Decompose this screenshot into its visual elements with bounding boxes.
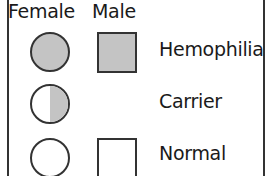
carrier-female-circle-icon — [30, 84, 70, 124]
carrier-label: Carrier — [159, 90, 222, 112]
female-header: Female — [8, 0, 75, 22]
hemophilia-label: Hemophilia — [159, 38, 264, 60]
pedigree-legend: Female Male Hemophilia Carrier Normal — [7, 0, 265, 176]
normal-male-square-icon — [97, 138, 137, 176]
affected-male-square-icon — [97, 32, 137, 73]
male-header: Male — [92, 0, 136, 22]
normal-female-circle-icon — [30, 138, 70, 176]
affected-female-circle-icon — [30, 32, 70, 72]
normal-label: Normal — [159, 142, 226, 164]
